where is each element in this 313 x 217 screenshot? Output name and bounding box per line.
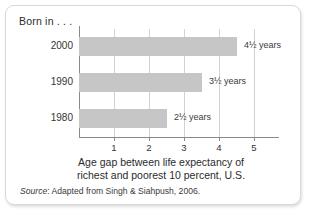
tick-label: 4 [209, 142, 229, 153]
category-label: 2000 [13, 40, 73, 51]
bar-value-label: 4½ years [244, 40, 281, 50]
bar-chart: Born in . . . 4½ years3½ years2½ years 2… [6, 6, 302, 158]
bar-value-label: 3½ years [209, 76, 246, 86]
bar [79, 37, 237, 56]
tick-mark [219, 137, 220, 141]
x-axis-line [79, 137, 279, 138]
tick-mark [114, 137, 115, 141]
source-text: : Adapted from Singh & Siahpush, 2006. [47, 186, 200, 196]
bar-row: 4½ years [79, 29, 272, 65]
y-axis-title: Born in . . . [19, 15, 72, 27]
source-note: Source: Adapted from Singh & Siahpush, 2… [20, 186, 200, 196]
tick-label: 3 [174, 142, 194, 153]
figure-panel: Born in . . . 4½ years3½ years2½ years 2… [5, 5, 301, 205]
tick-label: 2 [139, 142, 159, 153]
category-label: 1980 [13, 112, 73, 123]
tick-mark [254, 137, 255, 141]
bar-value-label: 2½ years [174, 112, 211, 122]
bar-row: 2½ years [79, 101, 272, 137]
x-axis-title-line2: richest and poorest 10 percent, U.S. [51, 169, 271, 182]
tick-label: 5 [244, 142, 264, 153]
source-label: Source [20, 186, 47, 196]
bar-row: 3½ years [79, 65, 272, 101]
tick-mark [184, 137, 185, 141]
tick-label: 1 [104, 142, 124, 153]
x-axis-title-line1: Age gap between life expectancy of [51, 156, 271, 169]
tick-mark [149, 137, 150, 141]
bar [79, 109, 167, 128]
bar [79, 73, 202, 92]
x-axis-title: Age gap between life expectancy of riche… [51, 156, 271, 182]
category-label: 1990 [13, 76, 73, 87]
